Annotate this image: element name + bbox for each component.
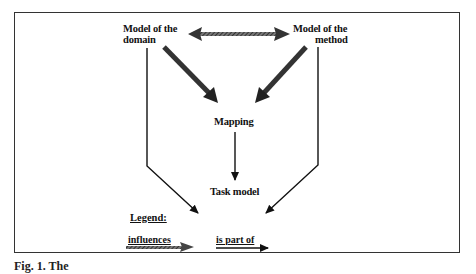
influences-arrow-domain-method: [188, 27, 290, 41]
node-method-line1: Model of the: [293, 23, 348, 34]
influences-arrow-domain-mapping: [164, 47, 218, 103]
partof-arrow-method-task: [266, 47, 318, 213]
legend-title: Legend:: [130, 212, 167, 223]
node-domain-line1: Model of the: [123, 23, 177, 34]
node-task-model: Task model: [210, 186, 259, 197]
influences-arrow-method-mapping: [255, 47, 306, 103]
figure-caption: Fig. 1. The: [14, 259, 68, 274]
node-mapping: Mapping: [214, 116, 253, 127]
node-model-of-domain: Model of the domain: [123, 23, 177, 45]
legend-influences-label: influences: [128, 234, 171, 245]
legend-partof-label: is part of: [216, 234, 254, 245]
node-domain-line2: domain: [123, 34, 177, 45]
node-model-of-method: Model of the method: [293, 23, 348, 45]
node-method-line2: method: [293, 34, 348, 45]
